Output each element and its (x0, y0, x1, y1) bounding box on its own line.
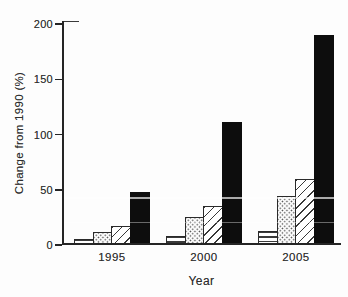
y-tick-mark-50 (55, 189, 62, 191)
y-tick-mark-0 (55, 244, 62, 246)
y-tick-label-200: 200 (0, 18, 53, 30)
bar-2005-series-2-stipple-dots (277, 196, 297, 245)
bar-chart-figure: Change from 1990 (%) 050100150200 199520… (0, 0, 348, 297)
bar-2000-series-4-solid-black (222, 122, 242, 245)
bar-2000-series-3-diagonal-hatch (203, 206, 223, 245)
y-tick-label-150: 150 (0, 73, 53, 85)
y-tick-mark-200 (55, 23, 62, 25)
x-tick-label-2005: 2005 (266, 250, 326, 264)
axis-corner-stub (62, 21, 79, 22)
x-tick-label-2000: 2000 (174, 250, 234, 264)
x-tick-label-1995: 1995 (82, 250, 142, 264)
bar-2005-series-4-solid-black (314, 35, 334, 245)
bar-1995-series-4-solid-black (130, 192, 150, 245)
y-tick-mark-100 (55, 134, 62, 136)
x-axis-line (62, 243, 341, 245)
bar-2000-series-2-stipple-dots (185, 217, 205, 245)
y-tick-label-100: 100 (0, 129, 53, 141)
bars-layer (62, 21, 341, 245)
y-tick-label-50: 50 (0, 184, 53, 196)
plot-area (62, 21, 341, 245)
bar-2005-series-3-diagonal-hatch (295, 179, 315, 245)
y-tick-label-0: 0 (0, 239, 53, 251)
bar-1995-series-3-diagonal-hatch (111, 226, 131, 245)
x-axis-title: Year (62, 274, 341, 288)
y-tick-mark-150 (55, 79, 62, 81)
y-axis-line (62, 21, 64, 245)
